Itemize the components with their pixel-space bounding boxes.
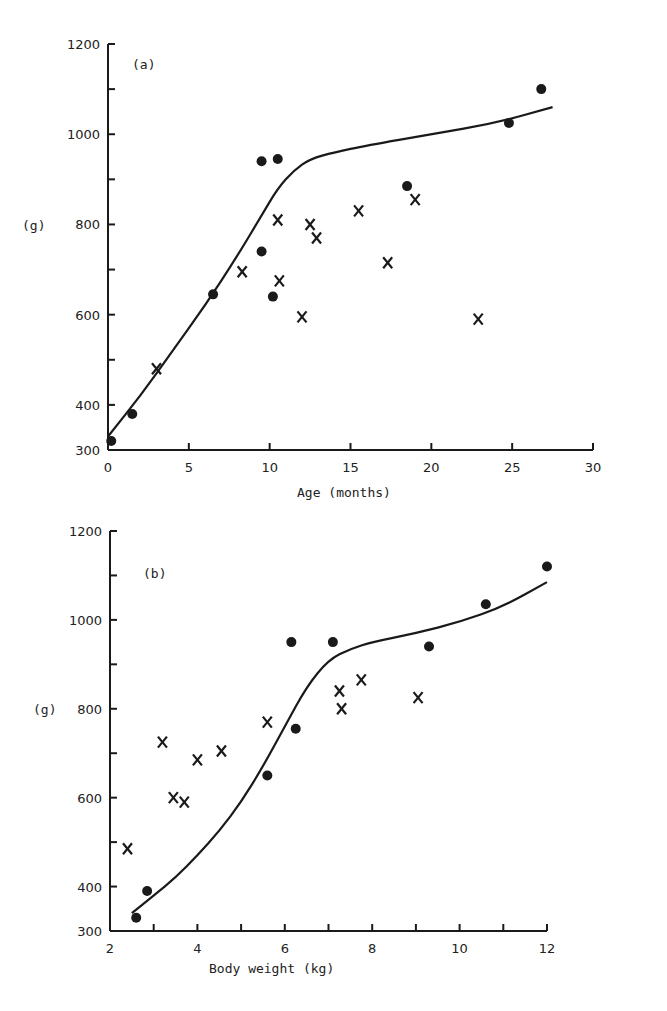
x-tick-label: 8 <box>368 941 376 956</box>
x-tick-label: 2 <box>106 941 114 956</box>
data-point-cross <box>357 674 366 685</box>
data-point-dot <box>504 118 514 128</box>
data-point-dot <box>106 436 116 446</box>
data-point-dot <box>257 247 267 257</box>
data-points-b <box>123 562 552 923</box>
y-tick-label: 1200 <box>69 524 102 539</box>
x-tick-label: 10 <box>261 460 278 475</box>
data-point-dot <box>542 562 552 572</box>
data-point-cross <box>312 232 321 243</box>
data-point-cross <box>158 737 167 748</box>
fitted-curve-line <box>132 582 547 913</box>
panel-label-b: (b) <box>143 566 166 581</box>
data-point-cross <box>414 692 423 703</box>
data-point-dot <box>481 599 491 609</box>
x-tick-label: 20 <box>423 460 440 475</box>
data-points-a <box>106 84 546 446</box>
y-tick-label: 600 <box>77 791 102 806</box>
axes-a: 30040060080010001200051015202530 <box>67 37 601 475</box>
data-point-cross <box>474 314 483 325</box>
x-tick-label: 5 <box>185 460 193 475</box>
data-point-cross <box>217 746 226 757</box>
data-point-cross <box>411 194 420 205</box>
fitted-curve-line <box>108 107 553 436</box>
data-point-dot <box>286 637 296 647</box>
y-axis-title-a: (g) <box>22 218 45 233</box>
x-tick-label: 12 <box>539 941 556 956</box>
data-point-dot <box>424 642 434 652</box>
data-point-dot <box>291 724 301 734</box>
data-point-cross <box>354 205 363 216</box>
data-point-dot <box>536 84 546 94</box>
data-point-cross <box>275 275 284 286</box>
data-point-dot <box>131 913 141 923</box>
fitted-curve-a <box>108 107 553 436</box>
data-point-dot <box>273 154 283 164</box>
data-point-cross <box>263 717 272 728</box>
y-tick-label: 800 <box>75 217 100 232</box>
y-tick-label: 600 <box>75 308 100 323</box>
y-tick-label: 400 <box>75 398 100 413</box>
x-tick-label: 0 <box>104 460 112 475</box>
data-point-cross <box>335 686 344 697</box>
y-tick-label: 1200 <box>67 37 100 52</box>
data-point-dot <box>402 181 412 191</box>
data-point-cross <box>238 266 247 277</box>
y-tick-label: 1000 <box>67 127 100 142</box>
x-tick-label: 25 <box>504 460 521 475</box>
data-point-cross <box>123 843 132 854</box>
fitted-curve-b <box>132 582 547 913</box>
data-point-cross <box>337 703 346 714</box>
chart-panel-a: 30040060080010001200051015202530 (a) (g)… <box>22 37 601 500</box>
y-tick-label: 800 <box>77 702 102 717</box>
data-point-cross <box>306 219 315 230</box>
y-axis-title-b: (g) <box>33 702 56 717</box>
panel-label-a: (a) <box>132 57 155 72</box>
x-tick-label: 4 <box>193 941 201 956</box>
data-point-cross <box>180 797 189 808</box>
y-tick-label: 300 <box>75 443 100 458</box>
x-tick-label: 30 <box>585 460 602 475</box>
figure: 30040060080010001200051015202530 (a) (g)… <box>0 0 667 1011</box>
x-tick-label: 6 <box>281 941 289 956</box>
data-point-dot <box>268 292 278 302</box>
data-point-cross <box>273 214 282 225</box>
data-point-cross <box>193 754 202 765</box>
x-axis-title-b: Body weight (kg) <box>209 961 334 976</box>
data-point-dot <box>208 289 218 299</box>
data-point-dot <box>328 637 338 647</box>
axes-b: 3004006008001000120024681012 <box>69 524 555 956</box>
data-point-cross <box>383 257 392 268</box>
y-tick-label: 400 <box>77 880 102 895</box>
data-point-cross <box>169 792 178 803</box>
x-axis-title-a: Age (months) <box>297 485 391 500</box>
chart-panel-b: 3004006008001000120024681012 (b) (g) Bod… <box>33 524 555 976</box>
data-point-cross <box>298 311 307 322</box>
y-tick-label: 1000 <box>69 613 102 628</box>
x-tick-label: 10 <box>451 941 468 956</box>
y-tick-label: 300 <box>77 924 102 939</box>
data-point-dot <box>262 770 272 780</box>
data-point-dot <box>257 156 267 166</box>
x-tick-label: 15 <box>342 460 359 475</box>
data-point-dot <box>127 409 137 419</box>
data-point-dot <box>142 886 152 896</box>
